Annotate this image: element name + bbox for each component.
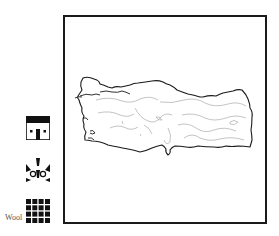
contour-lines: [96, 97, 246, 143]
grid-weave-icon: [26, 199, 50, 223]
rug-motif-icon: [26, 158, 50, 182]
house-icon: [26, 116, 50, 140]
country-outline: [78, 77, 253, 155]
legend-label-wool: Wool: [5, 213, 22, 222]
